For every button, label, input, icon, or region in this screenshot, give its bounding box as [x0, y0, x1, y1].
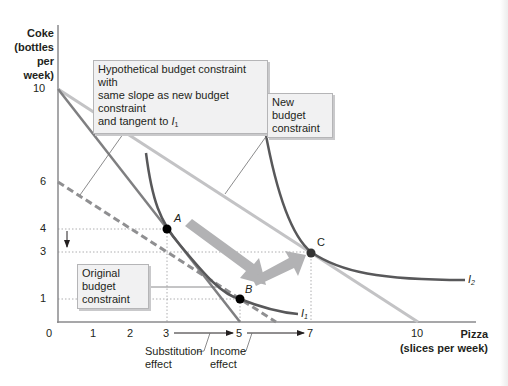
curve-i2-label: I2 — [468, 273, 475, 289]
callout-line: Original budget — [82, 267, 144, 293]
effect-label-line: Substitution — [145, 345, 202, 358]
callout-line: same slope as new budget constraint — [98, 89, 263, 115]
x-tick-0: 0 — [46, 327, 52, 340]
x-tick-5: 5 — [236, 327, 242, 340]
point-c-label: C — [317, 236, 325, 249]
x-axis-title-line: Pizza — [398, 327, 488, 341]
y-tick-10: 10 — [33, 82, 45, 95]
curve-subscript: 1 — [304, 313, 308, 320]
callout-line: and tangent to I1 — [98, 115, 263, 131]
point-b-marker — [236, 295, 245, 304]
y-axis-title-line: per — [0, 54, 54, 68]
x-tick-7: 7 — [307, 327, 313, 340]
callout-line: Hypothetical budget constraint with — [98, 63, 263, 89]
y-axis-title: Coke (bottles per week) — [0, 26, 54, 82]
chart-figure: Coke (bottles per week) 10 6 4 3 1 0 1 2… — [0, 0, 508, 386]
point-a-marker — [163, 225, 172, 234]
y-tick-3: 3 — [40, 245, 46, 258]
callout-new-budget: New budget constraint — [267, 93, 333, 138]
point-b-label: B — [245, 283, 252, 296]
curve-i1-label: I1 — [301, 307, 308, 323]
point-c-marker — [307, 249, 316, 258]
effect-label-line: effect — [145, 358, 202, 371]
point-a-label: A — [174, 212, 181, 225]
x-tick-3: 3 — [163, 327, 169, 340]
y-axis-title-line: (bottles — [0, 40, 54, 54]
curve-subscript: 1 — [174, 121, 178, 128]
y-tick-4: 4 — [40, 222, 46, 235]
income-effect-label: Income effect — [210, 345, 246, 371]
substitution-effect-label: Substitution effect — [145, 345, 202, 371]
page-edge — [500, 0, 508, 386]
x-axis-title: Pizza (slices per week) — [398, 327, 488, 355]
substitution-arrow-icon — [185, 219, 266, 285]
callout-line: constraint — [82, 293, 144, 306]
y-tick-1: 1 — [40, 292, 46, 305]
callout-text: and tangent to — [98, 115, 171, 127]
callout-original-budget: Original budget constraint — [77, 264, 149, 309]
callout-line: New budget — [272, 96, 328, 122]
x-axis-title-line: (slices per week) — [398, 341, 488, 355]
x-tick-1: 1 — [90, 327, 96, 340]
effect-label-line: effect — [210, 358, 246, 371]
y-tick-6: 6 — [40, 175, 46, 188]
y-axis-title-line: Coke — [0, 26, 54, 40]
effect-label-line: Income — [210, 345, 246, 358]
y-axis-title-line: week) — [0, 68, 54, 82]
callout-line: constraint — [272, 122, 328, 135]
curve-subscript: 2 — [471, 279, 475, 286]
x-tick-2: 2 — [127, 327, 133, 340]
callout-hypothetical-budget: Hypothetical budget constraint with same… — [93, 60, 268, 134]
